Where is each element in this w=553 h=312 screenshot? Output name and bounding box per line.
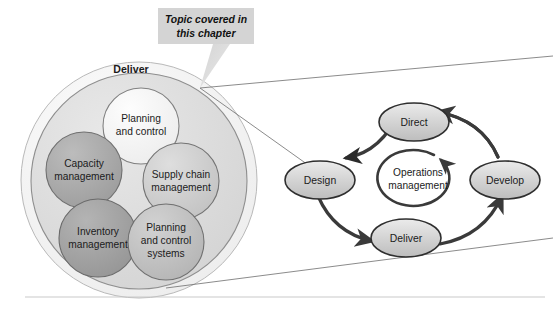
cycle-node-deliver[interactable]: Deliver [371,219,441,257]
supply-chain-management-label-line2: management [151,182,211,193]
arc-design-to-deliver [318,196,372,241]
callout-pointer-tail [200,44,230,88]
operations-management-label-line1: Operations [393,167,443,178]
connector-upper-diagonal [200,56,553,88]
bubble-capacity-management[interactable]: Capacity management [46,132,122,208]
cycle-node-design[interactable]: Design [285,161,355,199]
callout-text-line1: Topic covered in [165,14,247,25]
arc-deliver-to-develop [440,196,502,244]
planning-and-control-label-line2: and control [116,126,166,137]
callout-text-line2: this chapter [177,28,237,39]
operations-management-cycle[interactable]: Operations management Direct Develop Del… [285,103,540,257]
planning-and-control-label-line1: Planning [121,113,161,124]
capacity-management-circle [46,132,122,208]
planning-and-control-systems-label-line1: Planning [146,222,186,233]
capacity-management-label-line1: Capacity [64,158,105,169]
figure-canvas: Deliver Planning and control Capacity ma… [0,0,553,312]
operations-management-label-line2: management [388,180,448,191]
planning-and-control-systems-label-line3: systems [147,248,184,259]
operations-management-diagram: Deliver Planning and control Capacity ma… [0,0,553,312]
develop-label: Develop [486,175,524,186]
inventory-management-label-line2: management [68,239,128,250]
cycle-node-direct[interactable]: Direct [379,103,449,141]
design-label: Design [304,175,337,186]
capacity-management-label-line2: management [54,171,114,182]
direct-label: Direct [400,117,427,128]
deliver-title: Deliver [113,63,148,75]
supply-chain-management-label-line1: Supply chain [152,169,210,180]
inventory-management-label-line1: Inventory [77,226,120,237]
bubble-inventory-management[interactable]: Inventory management [59,199,137,277]
cycle-node-develop[interactable]: Develop [470,161,540,199]
deliver-cycle-label: Deliver [390,233,423,244]
inventory-management-circle [59,199,137,277]
bubble-planning-and-control-systems[interactable]: Planning and control systems [128,204,204,280]
planning-and-control-systems-label-line2: and control [141,235,191,246]
deliver-group[interactable]: Deliver Planning and control Capacity ma… [21,62,257,298]
